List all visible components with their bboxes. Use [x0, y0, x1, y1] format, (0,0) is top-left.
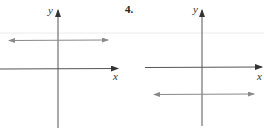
right-y-label: y — [193, 4, 198, 15]
right-graph — [145, 10, 262, 126]
left-y-label: y — [48, 5, 53, 16]
figure-canvas — [0, 0, 264, 132]
left-graph — [0, 10, 118, 128]
problem-number: 4. — [125, 4, 133, 15]
left-x-label: x — [113, 71, 118, 82]
x-axis — [145, 67, 262, 68]
right-x-label: x — [257, 71, 262, 82]
horizontal-line — [9, 40, 108, 41]
x-axis — [0, 69, 118, 70]
horizontal-line — [154, 94, 254, 95]
